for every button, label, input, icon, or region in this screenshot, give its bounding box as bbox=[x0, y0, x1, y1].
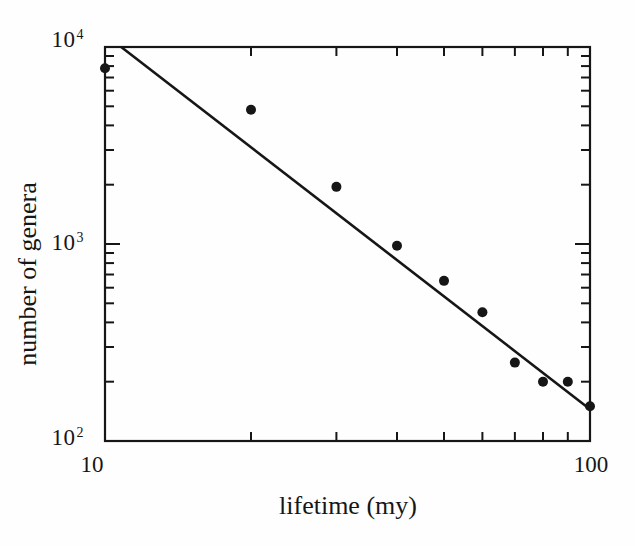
x-tick-label-10: 10 bbox=[57, 452, 127, 478]
y-tick-exponent: 2 bbox=[77, 425, 85, 440]
y-tick-label-10e4: 104 bbox=[16, 27, 84, 56]
data-point bbox=[477, 307, 487, 317]
scatter-plot-figure: 104 103 102 10 100 lifetime (my) number … bbox=[0, 0, 635, 546]
data-point bbox=[563, 377, 573, 387]
y-axis-label: number of genera bbox=[13, 182, 43, 365]
data-point bbox=[585, 401, 595, 411]
y-tick-base: 10 bbox=[52, 425, 76, 450]
y-tick-base: 10 bbox=[52, 230, 76, 255]
data-point bbox=[510, 358, 520, 368]
plot-frame bbox=[105, 47, 590, 441]
data-point bbox=[538, 377, 548, 387]
y-tick-exponent: 3 bbox=[77, 230, 85, 245]
data-point bbox=[331, 182, 341, 192]
x-axis-label: lifetime (my) bbox=[198, 491, 498, 521]
x-tick-label-100: 100 bbox=[556, 452, 626, 478]
data-point bbox=[392, 241, 402, 251]
y-tick-label-10e2: 102 bbox=[16, 425, 84, 454]
data-point bbox=[246, 105, 256, 115]
y-tick-exponent: 4 bbox=[77, 27, 85, 42]
data-point bbox=[100, 63, 110, 73]
fit-line bbox=[121, 47, 590, 409]
data-point bbox=[439, 276, 449, 286]
y-tick-base: 10 bbox=[52, 27, 76, 52]
